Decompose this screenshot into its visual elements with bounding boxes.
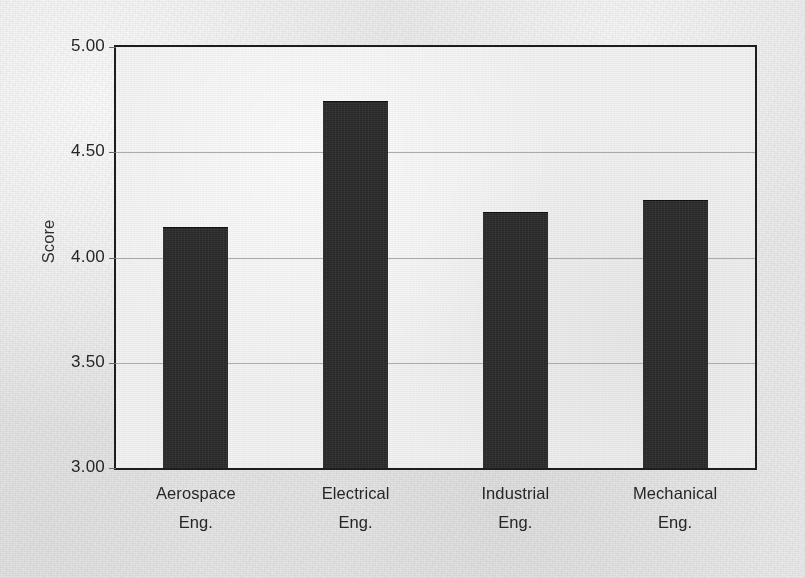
y-axis-tick-label: 4.50 xyxy=(13,141,105,161)
x-axis-category-label: MechanicalEng. xyxy=(595,479,755,537)
bar[interactable] xyxy=(323,101,388,468)
y-axis-tick-mark xyxy=(109,152,116,153)
category-label-line1: Industrial xyxy=(481,484,549,502)
x-axis-category-labels: AerospaceEng.ElectricalEng.IndustrialEng… xyxy=(114,479,757,549)
category-label-line2: Eng. xyxy=(436,508,596,537)
category-label-line2: Eng. xyxy=(595,508,755,537)
plot-area xyxy=(114,45,757,470)
x-axis-category-label: IndustrialEng. xyxy=(436,479,596,537)
y-axis-tick-label: 4.00 xyxy=(13,247,105,267)
category-label-line2: Eng. xyxy=(276,508,436,537)
y-axis-tick-label: 3.50 xyxy=(13,352,105,372)
bar[interactable] xyxy=(643,200,708,468)
bar[interactable] xyxy=(483,212,548,468)
category-label-line1: Aerospace xyxy=(156,484,236,502)
category-label-line1: Mechanical xyxy=(633,484,717,502)
x-axis-category-label: AerospaceEng. xyxy=(116,479,276,537)
gridline xyxy=(116,152,755,153)
chart-page: Score 5.004.504.003.503.00 AerospaceEng.… xyxy=(0,0,805,578)
y-axis-tick-labels: 5.004.504.003.503.00 xyxy=(0,0,105,578)
y-axis-tick-mark xyxy=(109,468,116,469)
bar[interactable] xyxy=(163,227,228,468)
category-label-line1: Electrical xyxy=(322,484,390,502)
y-axis-tick-mark xyxy=(109,363,116,364)
y-axis-tick-label: 3.00 xyxy=(13,457,105,477)
y-axis-tick-mark xyxy=(109,47,116,48)
y-axis-tick-label: 5.00 xyxy=(13,36,105,56)
y-axis-tick-mark xyxy=(109,258,116,259)
x-axis-category-label: ElectricalEng. xyxy=(276,479,436,537)
category-label-line2: Eng. xyxy=(116,508,276,537)
